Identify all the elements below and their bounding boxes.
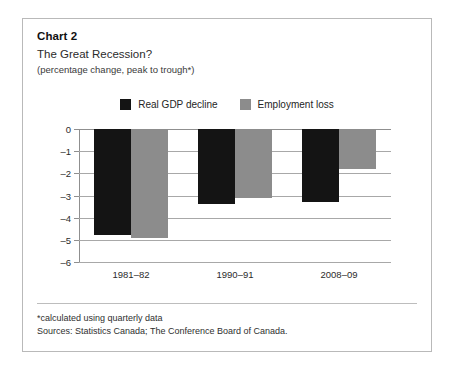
legend-label-employment: Employment loss — [258, 99, 334, 110]
gridline — [79, 262, 391, 263]
y-axis-tick-label: –5 — [60, 236, 71, 245]
x-axis-tick-label: 1990–91 — [217, 269, 254, 280]
legend-item-real-gdp-decline: Real GDP decline — [120, 99, 217, 110]
x-axis-tick-label: 1981–82 — [113, 269, 150, 280]
x-axis-labels: 1981–821990–912008–09 — [79, 269, 391, 285]
y-axis-tick-label: –1 — [60, 147, 71, 156]
footnote-calculation: *calculated using quarterly data — [37, 312, 419, 325]
y-axis-tick — [74, 218, 79, 219]
y-axis-tick — [74, 151, 79, 152]
bar-employment — [339, 129, 376, 169]
y-axis-tick — [74, 173, 79, 174]
footnote-sources: Sources: Statistics Canada; The Conferen… — [37, 325, 419, 338]
bar-employment — [235, 129, 272, 198]
chart-title: The Great Recession? — [37, 46, 421, 62]
legend-label-gdp: Real GDP decline — [138, 99, 217, 110]
x-axis-tick-label: 2008–09 — [321, 269, 358, 280]
footer-divider — [37, 303, 417, 304]
plot-area: 0–1–2–3–4–5–6 — [79, 129, 391, 262]
y-axis-tick — [74, 196, 79, 197]
chart-number-label: Chart 2 — [37, 29, 421, 43]
bar-employment — [131, 129, 168, 238]
footnotes: *calculated using quarterly data Sources… — [37, 312, 419, 338]
y-axis-tick-label: –3 — [60, 192, 71, 201]
bar-gdp — [302, 129, 339, 202]
plot-wrapper: 0–1–2–3–4–5–6 1981–821990–912008–09 — [23, 123, 433, 273]
bar-gdp — [94, 129, 131, 235]
chart-legend: Real GDP decline Employment loss — [23, 99, 431, 110]
y-axis-tick — [74, 129, 79, 130]
y-axis-tick-label: –2 — [60, 169, 71, 178]
chart-card: Chart 2 The Great Recession? (percentage… — [22, 18, 432, 352]
bar-gdp — [198, 129, 235, 204]
y-axis-tick-label: –6 — [60, 258, 71, 267]
y-axis-tick — [74, 262, 79, 263]
chart-header: Chart 2 The Great Recession? (percentage… — [37, 29, 421, 76]
chart-subtitle: (percentage change, peak to trough*) — [37, 63, 421, 76]
y-axis-tick-label: –4 — [60, 214, 71, 223]
y-axis-tick — [74, 240, 79, 241]
gridline — [79, 240, 391, 241]
y-axis-tick-label: 0 — [66, 125, 71, 134]
legend-swatch-icon-employment — [240, 99, 251, 110]
legend-swatch-icon-gdp — [120, 99, 131, 110]
legend-item-employment-loss: Employment loss — [240, 99, 334, 110]
